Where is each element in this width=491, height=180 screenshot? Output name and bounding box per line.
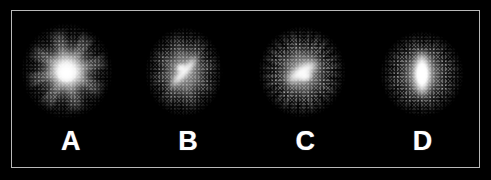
panel-d: D [364, 11, 480, 167]
galaxy-image [362, 14, 480, 134]
panel-label-b: B [178, 128, 198, 155]
panel-label-c: C [295, 128, 315, 155]
panel-frame: ABCD [11, 10, 480, 168]
panel-a: A [12, 11, 129, 167]
panel-b: B [129, 11, 246, 167]
galaxy-image [124, 12, 244, 132]
galaxy-nucleus [414, 61, 430, 87]
galaxy-image [11, 11, 127, 131]
panel-label-d: D [413, 128, 433, 155]
figure-root: ABCD [0, 0, 491, 180]
panel-label-a: A [61, 128, 81, 155]
galaxy-nucleus [175, 63, 188, 74]
galaxy-image [242, 12, 362, 132]
galaxy-nucleus [56, 65, 76, 83]
galaxy-nucleus [297, 69, 314, 83]
panel-c: C [247, 11, 364, 167]
